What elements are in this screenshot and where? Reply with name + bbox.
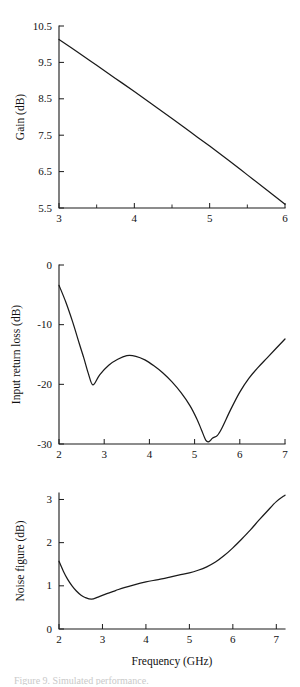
- gain-y-tick-label: 9.5: [38, 56, 52, 68]
- gain-plot-group: 5.56.57.58.59.510.53456Gain (dB): [14, 20, 288, 224]
- noise-figure-chart-svg: 0123234567Noise figure (dB)Frequency (GH…: [0, 455, 300, 670]
- figure-container: 5.56.57.58.59.510.53456Gain (dB) -30-20-…: [0, 0, 300, 687]
- input-return-loss-plot-group: -30-20-100234567Input return loss (dB): [10, 259, 288, 458]
- gain-y-tick-label: 7.5: [38, 129, 52, 141]
- gain-axis-lines: [59, 26, 285, 208]
- gain-x-tick-label: 6: [282, 212, 288, 224]
- noise-figure-y-tick-label: 0: [47, 623, 53, 635]
- input-return-loss-y-tick-label: -10: [37, 318, 52, 330]
- input-return-loss-curve: [59, 285, 285, 442]
- noise-figure-y-tick-label: 2: [47, 536, 53, 548]
- noise-figure-x-tick-label: 4: [143, 633, 149, 645]
- gain-y-tick-label: 10.5: [33, 20, 53, 32]
- noise-figure-x-tick-label: 3: [100, 633, 106, 645]
- noise-figure-x-tick-label: 5: [187, 633, 193, 645]
- input-return-loss-chart-svg: -30-20-100234567Input return loss (dB): [0, 228, 300, 458]
- noise-figure-y-tick-label: 1: [47, 579, 53, 591]
- noise-figure-plot-group: 0123234567Noise figure (dB)Frequency (GH…: [14, 493, 285, 668]
- input-return-loss-y-tick-label: 0: [47, 259, 53, 271]
- noise-figure-x-axis-title: Frequency (GHz): [132, 655, 213, 668]
- gain-x-tick-label: 3: [56, 212, 62, 224]
- noise-figure-curve: [59, 495, 285, 599]
- noise-figure-y-tick-label: 3: [47, 493, 53, 505]
- input-return-loss-y-axis-title: Input return loss (dB): [10, 305, 23, 405]
- input-return-loss-y-tick-label: -20: [37, 378, 52, 390]
- noise-figure-y-axis-title: Noise figure (dB): [14, 520, 27, 601]
- noise-figure-x-tick-label: 2: [56, 633, 62, 645]
- gain-chart-svg: 5.56.57.58.59.510.53456Gain (dB): [0, 0, 300, 230]
- gain-curve: [59, 39, 285, 204]
- gain-y-tick-label: 5.5: [38, 202, 52, 214]
- gain-y-tick-label: 8.5: [38, 92, 52, 104]
- chart-panel-input-return-loss: -30-20-100234567Input return loss (dB): [0, 228, 300, 458]
- gain-x-tick-label: 5: [207, 212, 213, 224]
- chart-panel-gain: 5.56.57.58.59.510.53456Gain (dB): [0, 0, 300, 230]
- input-return-loss-y-tick-label: -30: [37, 438, 52, 450]
- noise-figure-x-tick-label: 7: [274, 633, 280, 645]
- input-return-loss-axis-lines: [59, 265, 285, 444]
- noise-figure-axis-lines: [59, 493, 285, 629]
- figure-caption-partial: Figure 9. Simulated performance.: [14, 676, 204, 685]
- chart-panel-noise-figure: 0123234567Noise figure (dB)Frequency (GH…: [0, 455, 300, 670]
- gain-x-tick-label: 4: [132, 212, 138, 224]
- gain-y-tick-label: 6.5: [38, 165, 52, 177]
- gain-y-axis-title: Gain (dB): [14, 94, 27, 140]
- noise-figure-x-tick-label: 6: [230, 633, 236, 645]
